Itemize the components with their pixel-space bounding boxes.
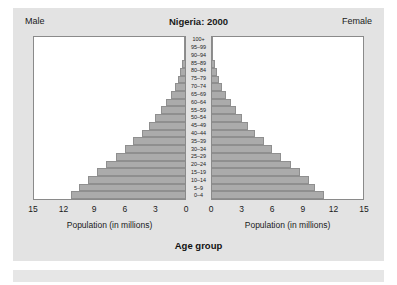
bar-row: [34, 106, 185, 114]
bar-row: [34, 153, 185, 161]
tick-6: 6: [270, 204, 275, 214]
bar-row: [212, 153, 363, 161]
male-bar-85-89: [182, 60, 185, 68]
bar-row: [212, 99, 363, 107]
male-plot-area: [33, 36, 186, 200]
bar-row: [34, 145, 185, 153]
male-bar-15-19: [97, 168, 185, 176]
age-label-75-79: 75–79: [186, 75, 211, 83]
male-bar-30-34: [125, 145, 185, 153]
female-bar-30-34: [212, 145, 272, 153]
male-bar-100+: [184, 37, 185, 45]
bar-row: [34, 168, 185, 176]
male-bar-95-99: [184, 45, 185, 53]
female-bar-70-74: [212, 83, 222, 91]
age-label-0-4: 0–4: [186, 192, 211, 200]
bar-row: [34, 161, 185, 169]
female-bar-20-24: [212, 161, 291, 169]
bar-row: [212, 122, 363, 130]
male-bar-50-54: [155, 114, 185, 122]
male-bar-60-64: [166, 99, 185, 107]
female-bar-95-99: [212, 45, 213, 53]
female-bar-50-54: [212, 114, 242, 122]
female-bar-85-89: [212, 60, 215, 68]
bar-row: [212, 76, 363, 84]
female-bar-80-84: [212, 68, 217, 76]
age-label-40-44: 40–44: [186, 130, 211, 138]
female-bar-90-94: [212, 52, 213, 60]
age-label-70-74: 70–74: [186, 83, 211, 91]
bar-row: [212, 83, 363, 91]
tick-15: 15: [28, 204, 37, 214]
bar-row: [34, 184, 185, 192]
tick-3: 3: [239, 204, 244, 214]
female-bar-0-4: [212, 191, 324, 199]
female-bar-15-19: [212, 168, 300, 176]
age-label-55-59: 55–59: [186, 106, 211, 114]
male-bar-20-24: [106, 161, 185, 169]
male-bar-55-59: [161, 106, 185, 114]
age-label-85-89: 85–89: [186, 59, 211, 67]
bar-row: [34, 83, 185, 91]
female-x-axis-ticks: 03691215: [211, 204, 364, 216]
age-label-45-49: 45–49: [186, 122, 211, 130]
male-x-axis-ticks: 15129630: [33, 204, 186, 216]
male-bar-70-74: [175, 83, 185, 91]
tick-12: 12: [59, 204, 68, 214]
bar-row: [34, 91, 185, 99]
age-label-10-14: 10–14: [186, 177, 211, 185]
tick-15: 15: [359, 204, 368, 214]
male-bar-35-39: [133, 137, 185, 145]
male-bar-40-44: [142, 130, 185, 138]
female-bar-45-49: [212, 122, 248, 130]
tick-9: 9: [300, 204, 305, 214]
female-side-label: Female: [342, 16, 372, 26]
age-label-30-34: 30–34: [186, 145, 211, 153]
tick-9: 9: [92, 204, 97, 214]
age-label-20-24: 20–24: [186, 161, 211, 169]
bar-row: [212, 176, 363, 184]
age-group-title: Age group: [13, 240, 384, 251]
bar-row: [34, 137, 185, 145]
age-label-35-39: 35–39: [186, 138, 211, 146]
age-group-axis: 100+95–9990–9485–8980–8475–7970–7465–696…: [186, 36, 211, 200]
age-label-5-9: 5–9: [186, 184, 211, 192]
male-bar-80-84: [180, 68, 185, 76]
age-label-90-94: 90–94: [186, 52, 211, 60]
bar-row: [34, 122, 185, 130]
bar-row: [212, 91, 363, 99]
age-label-100+: 100+: [186, 36, 211, 44]
bar-row: [34, 176, 185, 184]
age-label-65-69: 65–69: [186, 91, 211, 99]
chart-title: Nigeria: 2000: [13, 16, 384, 27]
female-axis-title: Population (in millions): [211, 220, 364, 230]
male-bar-90-94: [184, 52, 185, 60]
bar-row: [212, 45, 363, 53]
tick-6: 6: [122, 204, 127, 214]
bar-row: [212, 145, 363, 153]
female-bar-75-79: [212, 76, 219, 84]
bar-row: [34, 76, 185, 84]
age-label-25-29: 25–29: [186, 153, 211, 161]
female-bar-10-14: [212, 176, 309, 184]
female-bar-35-39: [212, 137, 264, 145]
tick-3: 3: [153, 204, 158, 214]
age-label-15-19: 15–19: [186, 169, 211, 177]
bar-row: [212, 130, 363, 138]
female-bar-100+: [212, 37, 213, 45]
bar-row: [34, 45, 185, 53]
male-bar-0-4: [71, 191, 185, 199]
male-bar-75-79: [178, 76, 185, 84]
female-bar-rows: [212, 37, 363, 199]
age-label-60-64: 60–64: [186, 99, 211, 107]
tick-0: 0: [209, 204, 214, 214]
male-bar-45-49: [149, 122, 185, 130]
female-bar-5-9: [212, 184, 315, 192]
male-bar-65-69: [171, 91, 185, 99]
bar-row: [212, 37, 363, 45]
bar-row: [34, 68, 185, 76]
male-axis-title: Population (in millions): [33, 220, 186, 230]
bar-row: [34, 60, 185, 68]
bar-row: [34, 114, 185, 122]
bar-row: [212, 137, 363, 145]
